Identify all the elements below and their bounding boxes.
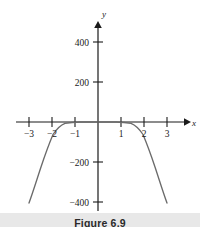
x-axis-arrow-icon — [184, 118, 191, 126]
x-tick-label-1: 1 — [119, 129, 124, 139]
x-axis-label: x — [191, 118, 196, 128]
graph-svg: −3 −2 −1 1 2 3 400 200 −200 −400 x y — [0, 0, 200, 213]
figure-caption-band: Figure 6.9 — [0, 213, 200, 227]
y-axis-label: y — [101, 9, 106, 19]
x-tick-label-3: 3 — [165, 129, 170, 139]
x-tick-label--3: −3 — [24, 129, 34, 139]
x-tick-label-2: 2 — [142, 129, 147, 139]
y-tick-label-200: 200 — [75, 78, 90, 88]
figure-page: −3 −2 −1 1 2 3 400 200 −200 −400 x y Fig… — [0, 0, 200, 227]
y-tick-label-400: 400 — [75, 38, 90, 48]
y-tick-label--400: −400 — [69, 198, 89, 208]
figure-caption: Figure 6.9 — [0, 217, 200, 227]
y-tick-label--200: −200 — [69, 158, 89, 168]
x-tick-label--1: −1 — [70, 129, 80, 139]
x-tick-label--2: −2 — [47, 129, 57, 139]
figure-plot-area: −3 −2 −1 1 2 3 400 200 −200 −400 x y — [0, 0, 200, 213]
y-axis-arrow-icon — [94, 21, 102, 28]
